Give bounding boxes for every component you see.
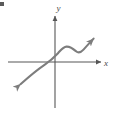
- function-curve: [21, 39, 94, 85]
- coordinate-plane-svg: x y: [0, 0, 117, 114]
- graph-figure: x y: [0, 0, 117, 114]
- y-axis-label: y: [56, 3, 61, 13]
- x-axis-label: x: [103, 58, 108, 68]
